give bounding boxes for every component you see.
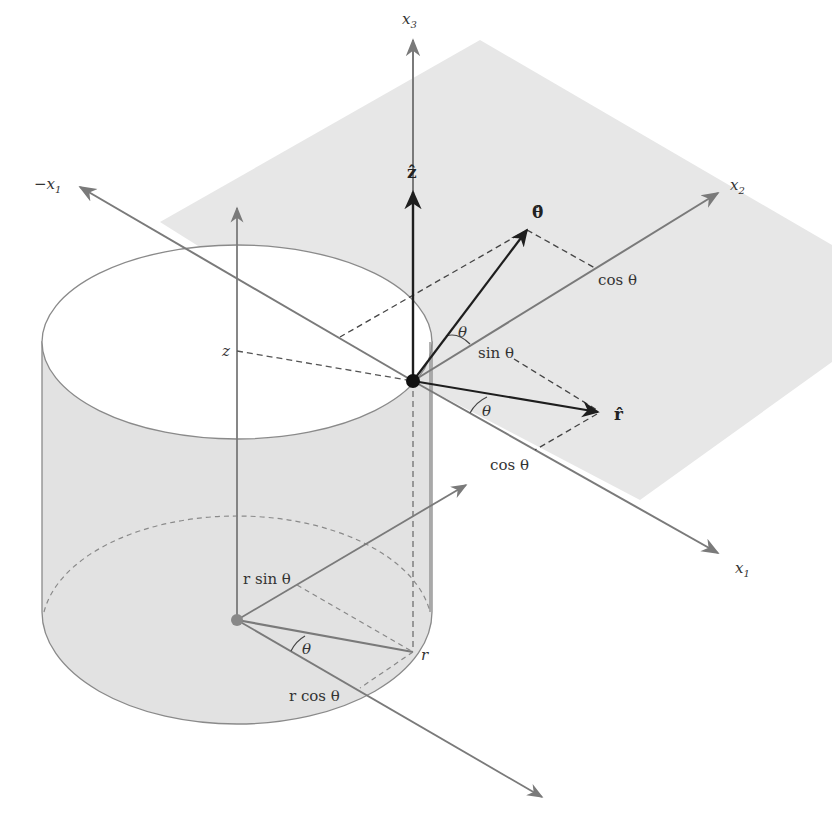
theta-hat-label: θ̂ (532, 202, 543, 222)
cylindrical-coordinates-diagram: x3 −x1 x2 x1 ẑ θ̂ r̂ cos θ θ sin θ θ cos… (0, 0, 832, 833)
r-hat-label: r̂ (614, 404, 624, 424)
theta-r-label: θ (482, 402, 491, 420)
theta-upper-label: θ (458, 323, 467, 341)
z-label: z (221, 342, 230, 360)
r-label: r (421, 646, 429, 664)
cos-theta-x2-label: cos θ (598, 271, 637, 289)
x1-axis-label: x1 (735, 559, 750, 579)
r-cos-theta-label: r cos θ (289, 687, 340, 705)
sin-theta-upper-label: sin θ (478, 344, 514, 362)
origin-point (406, 374, 420, 388)
theta-lower-label: θ (302, 640, 311, 658)
r-sin-theta-label: r sin θ (243, 570, 291, 588)
bottom-center-point (231, 614, 243, 626)
cos-theta-x1-label: cos θ (490, 456, 529, 474)
z-hat-label: ẑ (407, 162, 417, 182)
neg-x1-axis-label: −x1 (34, 175, 61, 195)
x2-axis-label: x2 (730, 176, 745, 196)
x3-axis-label: x3 (402, 10, 417, 30)
